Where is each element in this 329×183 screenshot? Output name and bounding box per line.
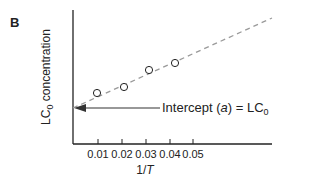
intercept-annotation: Intercept (a) = LC0 <box>162 100 269 117</box>
x-axis-title: 1/T <box>136 163 155 177</box>
chart: 0.01 0.02 0.03 0.04 0.05 1/T LC0 concent… <box>0 0 329 183</box>
data-point <box>171 59 178 66</box>
arrowhead-icon <box>74 104 86 112</box>
x-tick-label: 0.01 <box>87 148 108 160</box>
data-points <box>93 59 178 96</box>
data-point <box>120 83 127 90</box>
x-tick-label: 0.02 <box>111 148 132 160</box>
x-tick-label: 0.04 <box>159 148 180 160</box>
x-tick-label: 0.03 <box>135 148 156 160</box>
data-point <box>93 89 100 96</box>
x-ticks <box>98 139 193 144</box>
y-axis-title: LC0 concentration <box>39 29 55 125</box>
x-tick-label: 0.05 <box>182 148 203 160</box>
data-point <box>145 66 152 73</box>
x-tick-labels: 0.01 0.02 0.03 0.04 0.05 <box>87 148 203 160</box>
